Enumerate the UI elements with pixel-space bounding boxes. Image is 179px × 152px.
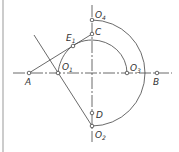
point-a: [27, 71, 31, 75]
label-c: C: [95, 27, 102, 37]
point-o1: [56, 71, 60, 75]
label-b: B: [153, 77, 159, 87]
labels-group: AO1O3BO4CE1DO2: [24, 10, 159, 141]
line-a-c: [29, 34, 92, 73]
point-e1: [71, 44, 75, 48]
line-diagonal-o2: [34, 35, 92, 126]
label-a: A: [24, 77, 31, 87]
label-o4: O4: [95, 10, 106, 21]
point-o3: [125, 71, 129, 75]
point-b: [155, 71, 159, 75]
label-e1: E1: [66, 33, 76, 44]
point-o4: [90, 18, 94, 22]
label-d: D: [96, 110, 103, 120]
point-o2: [90, 124, 94, 128]
label-o1: O1: [62, 62, 73, 73]
point-c: [90, 32, 94, 36]
point-d: [90, 111, 94, 115]
label-o3: O3: [130, 63, 141, 74]
construction-diagram: AO1O3BO4CE1DO2: [0, 0, 179, 152]
label-o2: O2: [95, 130, 106, 141]
